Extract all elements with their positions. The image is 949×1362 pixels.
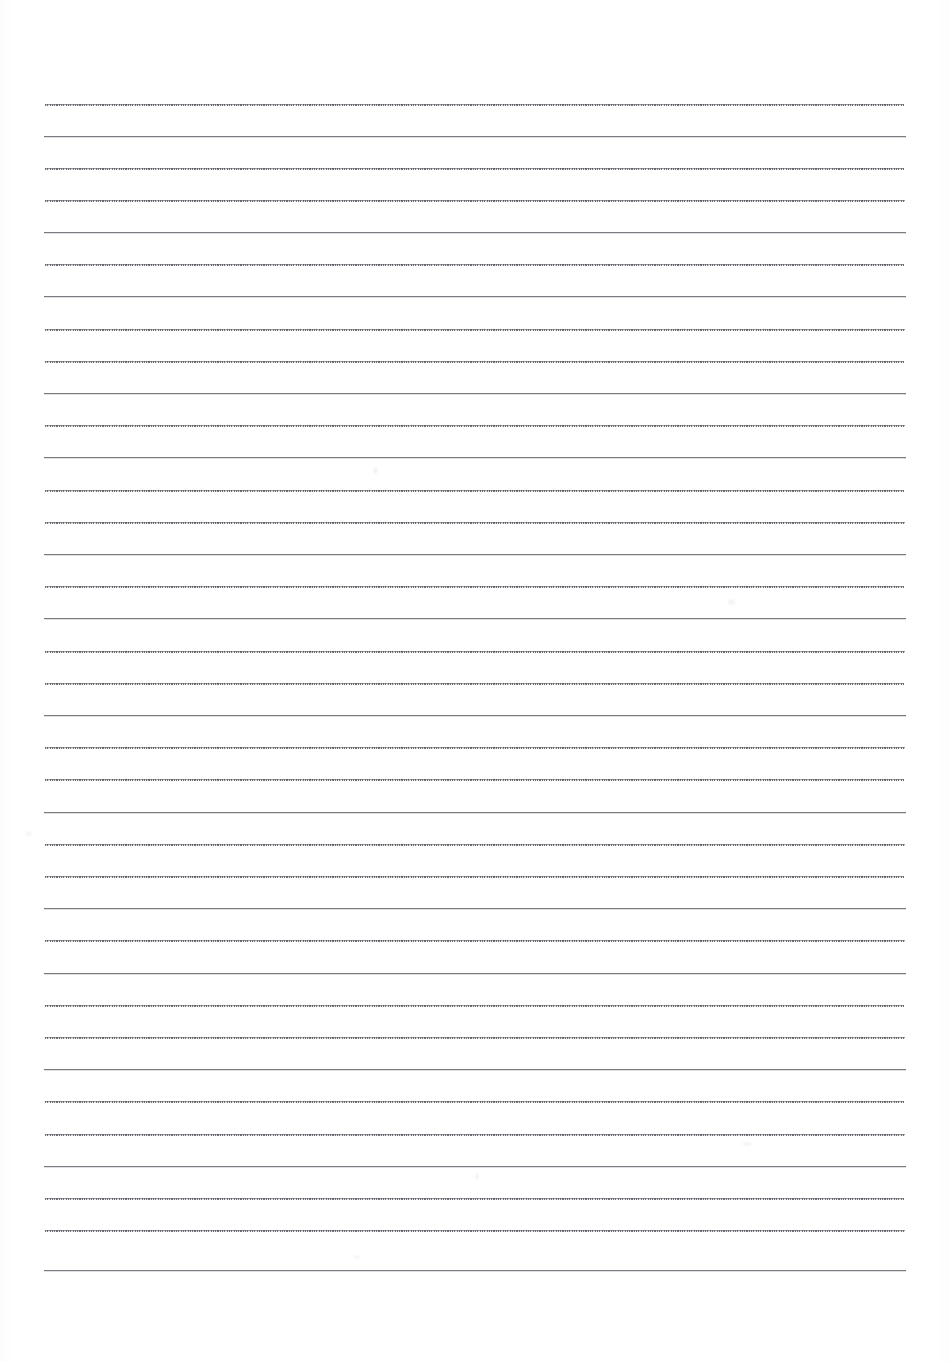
rule-line bbox=[45, 779, 904, 780]
rule-line bbox=[45, 200, 905, 201]
rule-line bbox=[45, 1230, 905, 1231]
rule-line bbox=[45, 329, 905, 330]
scanned-page bbox=[0, 0, 949, 1362]
rule-line bbox=[44, 1069, 906, 1070]
rule-line bbox=[45, 264, 904, 265]
rule-line bbox=[45, 940, 905, 941]
rule-line bbox=[45, 104, 904, 105]
rule-line bbox=[45, 1134, 905, 1135]
rule-line bbox=[45, 1037, 905, 1038]
rule-line bbox=[45, 1005, 904, 1006]
rule-line bbox=[44, 908, 906, 909]
rule-line bbox=[45, 168, 904, 169]
rule-line bbox=[45, 586, 904, 587]
rule-line bbox=[44, 393, 906, 394]
rule-line bbox=[45, 490, 904, 491]
rule-line bbox=[44, 232, 906, 233]
rule-line bbox=[45, 683, 904, 684]
rule-line bbox=[44, 296, 906, 297]
rule-line bbox=[44, 1166, 906, 1167]
rule-line bbox=[44, 554, 906, 555]
rule-line bbox=[45, 844, 905, 845]
rule-line bbox=[44, 136, 906, 137]
rule-line bbox=[45, 1198, 904, 1199]
rule-line bbox=[44, 457, 906, 458]
rule-line bbox=[45, 651, 905, 652]
rule-line bbox=[44, 618, 906, 619]
rule-line bbox=[44, 973, 906, 974]
rule-line bbox=[45, 522, 905, 523]
ruled-writing-area bbox=[0, 0, 949, 1362]
rule-line bbox=[44, 812, 906, 813]
rule-line bbox=[44, 715, 906, 716]
rule-line bbox=[45, 361, 904, 362]
rule-line bbox=[45, 425, 905, 426]
rule-line bbox=[45, 747, 905, 748]
rule-line bbox=[45, 1101, 904, 1102]
rule-line bbox=[45, 876, 904, 877]
rule-line bbox=[44, 1270, 906, 1271]
